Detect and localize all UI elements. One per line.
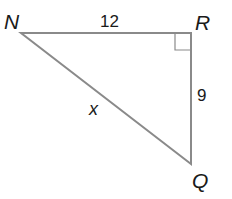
vertex-label-q: Q bbox=[192, 170, 208, 191]
right-angle-marker bbox=[175, 33, 191, 50]
vertex-label-r: R bbox=[195, 12, 210, 33]
side-label-nr: 12 bbox=[100, 13, 119, 30]
triangle-nrq bbox=[21, 33, 191, 164]
side-label-rq: 9 bbox=[197, 87, 206, 104]
vertex-label-n: N bbox=[4, 11, 19, 32]
side-label-nq: x bbox=[89, 100, 98, 118]
